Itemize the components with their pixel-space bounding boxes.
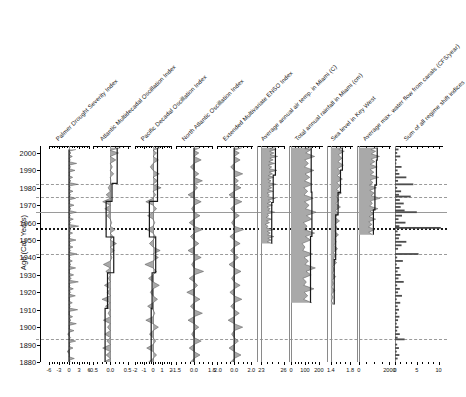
x-minor-tick: [226, 362, 227, 364]
y-tick-label: 2000: [20, 148, 36, 157]
y-tick-label: 1940: [20, 253, 36, 262]
x-minor-tick: [74, 362, 75, 364]
x-tick-label: -1.5: [171, 367, 181, 373]
x-minor-tick: [243, 362, 244, 364]
x-minor-tick: [102, 362, 103, 364]
x-minor-tick: [77, 362, 78, 364]
regime-step-line: [311, 148, 312, 303]
panel-palmer-drought-severity-index: -6-3036: [49, 146, 89, 362]
y-tick-label: 1930: [20, 270, 36, 279]
panel-left-edge: [327, 146, 328, 362]
x-tick-label: 0: [357, 367, 360, 373]
x-minor-tick: [106, 362, 107, 364]
regime-shift-bar: [395, 237, 399, 239]
regime-shift-bar: [395, 176, 406, 178]
x-minor-tick: [278, 362, 279, 364]
panel-atlantic-multidecadal-oscillation-index: -0.50.00.5: [93, 146, 131, 362]
regime-shift-bar: [395, 199, 400, 201]
x-minor-tick: [151, 362, 152, 364]
x-tick-mark-bottom: [89, 362, 90, 365]
x-tick-label: 0.0: [190, 367, 198, 373]
panel-total-annual-rainfall-miami: 0100200: [289, 146, 323, 362]
panel-title-total-annual-rainfall-miami: Total annual rainfall in Miami (cm): [293, 72, 363, 142]
panel-sea-level-key-west: 1.41.8: [327, 146, 353, 362]
x-minor-tick: [203, 362, 204, 364]
x-tick-mark-bottom: [79, 362, 80, 365]
regime-shift-bar: [395, 173, 399, 175]
x-tick-mark-bottom: [144, 362, 145, 365]
x-minor-tick: [238, 362, 239, 364]
regime-shift-bar: [395, 298, 397, 300]
y-tick-mark: [37, 188, 40, 189]
series-area: [359, 148, 380, 235]
panel-trace-average-annual-air-temp-miami: [257, 146, 285, 362]
regime-shift-bar: [395, 344, 397, 346]
x-tick-mark: [89, 146, 90, 149]
regime-shift-bar: [395, 264, 397, 266]
x-minor-tick: [115, 362, 116, 364]
regime-shift-bar: [395, 225, 399, 227]
panel-title-pacific-decadal-oscillation-index: Pacific Decadal Oscillation Index: [140, 74, 208, 142]
x-minor-tick: [221, 362, 222, 364]
x-minor-tick: [158, 362, 159, 364]
regime-shift-bar: [395, 218, 398, 220]
panel-left-edge: [357, 146, 358, 362]
x-minor-tick: [190, 362, 191, 364]
regime-shift-bar: [395, 284, 397, 286]
x-minor-tick: [298, 362, 299, 364]
x-minor-tick: [155, 362, 156, 364]
x-minor-tick: [315, 362, 316, 364]
panel-trace-north-atlantic-oscillation-index: [176, 146, 212, 362]
x-tick-label: 0: [393, 367, 396, 373]
regime-shift-bar: [395, 267, 399, 269]
panel-trace-extended-multivariate-enso-index: [217, 146, 253, 362]
y-tick-mark: [37, 327, 40, 328]
x-minor-tick: [84, 362, 85, 364]
x-tick-mark-bottom: [284, 362, 285, 365]
regime-shift-bar: [395, 337, 398, 339]
x-tick-mark-bottom: [261, 362, 262, 365]
x-tick-label: -6: [47, 367, 52, 373]
regime-shift-bar: [395, 149, 398, 151]
x-tick-mark-bottom: [439, 362, 440, 365]
regime-step-line: [272, 148, 276, 244]
x-tick-label: 26: [280, 367, 286, 373]
panel-pacific-decadal-oscillation-index: -2-1012: [135, 146, 171, 362]
x-minor-tick: [123, 362, 124, 364]
regime-shift-bar: [395, 260, 403, 262]
x-minor-tick: [57, 362, 58, 364]
x-tick-mark-bottom: [153, 362, 154, 365]
y-tick-mark: [37, 205, 40, 206]
regime-shift-bar: [395, 244, 402, 246]
y-tick-label: 1880: [20, 358, 36, 367]
x-tick-mark-bottom: [291, 362, 292, 365]
x-tick-mark-bottom: [251, 362, 252, 365]
panel-title-average-max-water-flow-canals: Average max. water flow from canals (CFS…: [361, 43, 460, 142]
panel-title-average-annual-air-temp-miami: Average annual air temp. in Miami (C): [260, 64, 338, 142]
regime-shift-bar: [395, 319, 398, 321]
x-tick-mark-bottom: [49, 362, 50, 365]
x-tick-label: 0: [151, 367, 154, 373]
y-tick-label: 1910: [20, 305, 36, 314]
regime-shift-bar: [395, 248, 398, 250]
x-minor-tick: [67, 362, 68, 364]
regime-shift-bar: [395, 274, 401, 276]
regime-shift-bar: [395, 180, 398, 182]
y-tick-label: 1980: [20, 183, 36, 192]
y-tick-mark: [37, 240, 40, 241]
regime-shift-bar: [395, 257, 397, 259]
y-tick-mark: [37, 345, 40, 346]
panel-trace-sum-of-all-regime-shift-indices: [395, 146, 443, 362]
x-tick-mark: [212, 146, 213, 149]
regime-shift-bar: [395, 206, 401, 208]
y-tick-label: 1990: [20, 166, 36, 175]
x-minor-tick: [87, 362, 88, 364]
x-tick-mark-bottom: [331, 362, 332, 365]
x-tick-mark-bottom: [417, 362, 418, 365]
x-minor-tick: [422, 362, 423, 364]
x-tick-label: -2: [133, 367, 138, 373]
x-tick-mark-bottom: [389, 362, 390, 365]
x-minor-tick: [54, 362, 55, 364]
regime-shift-bar: [395, 358, 398, 360]
